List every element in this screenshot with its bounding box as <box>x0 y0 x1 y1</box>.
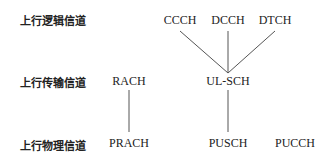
node-dtch: DTCH <box>259 13 292 28</box>
edge-ccch-ulsch <box>180 31 228 73</box>
edge-dtch-ulsch <box>228 31 275 73</box>
node-pusch: PUSCH <box>209 136 248 151</box>
node-prach: PRACH <box>109 136 149 151</box>
node-ccch: CCCH <box>164 13 197 28</box>
node-pucch: PUCCH <box>275 136 315 151</box>
node-dcch: DCCH <box>211 13 244 28</box>
node-ulsch: UL-SCH <box>206 74 249 89</box>
node-rach: RACH <box>112 74 145 89</box>
